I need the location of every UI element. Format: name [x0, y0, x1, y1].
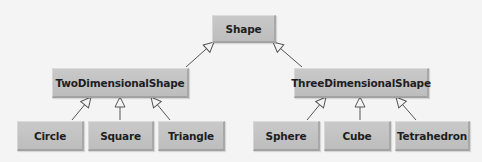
class-label: Triangle: [168, 130, 214, 142]
class-label: Square: [100, 130, 141, 142]
class-hierarchy-diagram: Shape TwoDimensionalShape ThreeDimension…: [0, 0, 482, 162]
edge-triangle-to-twodimensional: [151, 97, 170, 120]
class-box-square: Square: [88, 121, 154, 151]
class-box-shape: Shape: [212, 15, 276, 43]
class-label: Sphere: [266, 130, 307, 142]
class-box-circle: Circle: [17, 121, 84, 151]
edge-twodimensional-to-shape: [186, 42, 214, 67]
class-label: TwoDimensionalShape: [56, 77, 185, 89]
edge-sphere-to-threedimensional: [307, 97, 326, 120]
class-label: Cube: [342, 130, 371, 142]
class-label: Shape: [226, 23, 262, 35]
edge-circle-to-twodimensional: [72, 97, 91, 120]
class-box-tetrahedron: Tetrahedron: [395, 121, 470, 151]
class-label: Tetrahedron: [397, 130, 467, 142]
edge-tetrahedron-to-threedimensional: [396, 97, 416, 120]
edge-threedimensional-to-shape: [273, 42, 302, 67]
class-box-twodimensionalshape: TwoDimensionalShape: [52, 68, 189, 98]
class-box-triangle: Triangle: [158, 121, 225, 151]
class-box-sphere: Sphere: [253, 121, 320, 151]
class-label: ThreeDimensionalShape: [291, 77, 431, 89]
class-box-threedimensionalshape: ThreeDimensionalShape: [294, 68, 429, 98]
class-box-cube: Cube: [324, 121, 391, 151]
class-label: Circle: [34, 130, 66, 142]
